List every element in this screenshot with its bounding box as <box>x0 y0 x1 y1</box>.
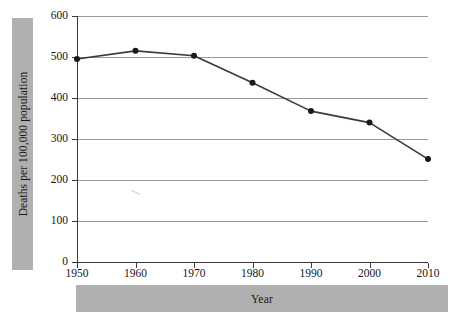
x-tick-label-1970: 1970 <box>171 268 217 280</box>
y-tick-label-100: 100 <box>28 215 68 227</box>
y-tick-mark-400 <box>72 98 77 99</box>
y-tick-label-200: 200 <box>28 174 68 186</box>
gridline-200 <box>77 180 428 181</box>
y-axis-line <box>77 16 78 263</box>
y-tick-label-0: 0 <box>28 256 68 268</box>
y-tick-label-500: 500 <box>28 51 68 63</box>
x-tick-label-1980: 1980 <box>230 268 276 280</box>
x-tick-label-1950: 1950 <box>54 268 100 280</box>
gridline-500 <box>77 57 428 58</box>
gridline-600 <box>77 16 428 17</box>
y-tick-mark-500 <box>72 57 77 58</box>
x-axis-title: Year <box>251 293 273 305</box>
plot-area <box>77 16 428 262</box>
y-tick-mark-200 <box>72 180 77 181</box>
x-axis-title-band: Year <box>76 285 448 312</box>
x-tick-label-1960: 1960 <box>113 268 159 280</box>
gridline-100 <box>77 221 428 222</box>
x-tick-label-2010: 2010 <box>405 268 451 280</box>
gridline-300 <box>77 139 428 140</box>
scan-artifact-mark <box>131 186 140 199</box>
y-tick-label-600: 600 <box>28 10 68 22</box>
y-tick-label-400: 400 <box>28 92 68 104</box>
x-tick-label-2000: 2000 <box>347 268 393 280</box>
x-tick-label-1990: 1990 <box>288 268 334 280</box>
gridline-400 <box>77 98 428 99</box>
y-tick-mark-600 <box>72 16 77 17</box>
y-tick-mark-100 <box>72 221 77 222</box>
y-tick-mark-300 <box>72 139 77 140</box>
chart-figure: Deaths per 100,000 population 0100200300… <box>0 0 469 321</box>
y-tick-label-300: 300 <box>28 133 68 145</box>
